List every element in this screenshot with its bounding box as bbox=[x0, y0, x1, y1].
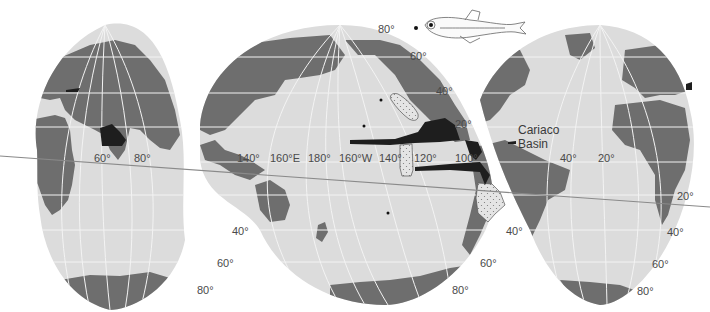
fish-icon bbox=[425, 10, 526, 43]
lat-label-40s-mid: 40° bbox=[506, 226, 523, 237]
station-dot-south-pacific bbox=[387, 212, 390, 215]
dotted-region-eq-pacific bbox=[400, 144, 413, 176]
station-dot-pacific-1 bbox=[380, 99, 383, 102]
station-dot-pacific-2 bbox=[363, 125, 366, 128]
lat-label-60s-right: 60° bbox=[652, 259, 669, 270]
lat-label-40n: 40° bbox=[436, 86, 453, 97]
lat-label-60s-left: 60° bbox=[217, 258, 234, 269]
lobe-indian bbox=[20, 24, 200, 312]
lon-label-100w: 100° bbox=[455, 153, 478, 164]
lon-label-160w: 160°W bbox=[339, 153, 372, 164]
lat-label-80s-left: 80° bbox=[197, 285, 214, 296]
lon-label-40w: 40° bbox=[560, 153, 577, 164]
lat-label-40s-left: 40° bbox=[232, 226, 249, 237]
lat-label-80s-mid: 80° bbox=[452, 285, 469, 296]
lat-label-60s-mid: 60° bbox=[480, 258, 497, 269]
lon-label-80: 80° bbox=[134, 153, 151, 164]
lon-label-60: 60° bbox=[94, 153, 111, 164]
lobe-pacific bbox=[190, 25, 510, 310]
lon-label-20w: 20° bbox=[598, 153, 615, 164]
cariaco-basin-label-line1: Cariaco bbox=[518, 124, 559, 138]
lobe-atlantic bbox=[470, 25, 710, 310]
lon-label-160e: 160°E bbox=[270, 153, 300, 164]
lat-label-20s-right: 20° bbox=[677, 191, 694, 202]
lon-label-120w: 120° bbox=[414, 153, 437, 164]
lon-label-180: 180° bbox=[308, 153, 331, 164]
lat-label-20n: 20° bbox=[455, 119, 472, 130]
lat-label-40s-right: 40° bbox=[667, 227, 684, 238]
cariaco-basin-label-line2: Basin bbox=[518, 138, 559, 152]
lon-label-140e: 140° bbox=[237, 153, 260, 164]
lon-label-140w: 140° bbox=[379, 153, 402, 164]
omz-namibia bbox=[686, 82, 692, 90]
station-dot-north bbox=[414, 26, 418, 30]
lat-label-60n: 60° bbox=[410, 51, 427, 62]
lat-label-80n: 80° bbox=[378, 24, 395, 35]
cariaco-basin-label: Cariaco Basin bbox=[518, 124, 559, 152]
lat-label-80s-right: 80° bbox=[637, 286, 654, 297]
